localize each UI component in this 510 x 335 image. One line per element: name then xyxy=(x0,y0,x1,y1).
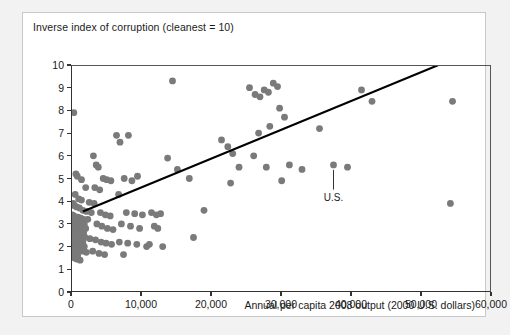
x-tick-label: 10,000 xyxy=(125,298,157,310)
chart-title: Inverse index of corruption (cleanest = … xyxy=(33,21,234,33)
scatter-point xyxy=(107,213,114,220)
scatter-point xyxy=(96,250,103,257)
y-tick-label: 3 xyxy=(30,218,64,230)
scatter-point xyxy=(113,132,120,139)
x-tick-mark xyxy=(280,292,281,296)
scatter-point xyxy=(169,77,176,84)
scatter-point xyxy=(274,83,281,90)
trendline xyxy=(83,65,439,211)
scatter-point xyxy=(110,226,117,233)
scatter-point xyxy=(265,89,272,96)
scatter-point xyxy=(157,210,164,217)
scatter-point xyxy=(447,200,454,207)
y-tick-label: 8 xyxy=(30,104,64,116)
scatter-point xyxy=(71,109,77,116)
scatter-point xyxy=(250,152,257,159)
scatter-point xyxy=(255,130,262,137)
x-axis-title: Annual per capita 2008 output (2000 U.S.… xyxy=(244,299,475,311)
scatter-point xyxy=(358,87,365,94)
scatter-point xyxy=(82,184,89,191)
x-tick-label: 60,000 xyxy=(475,298,507,310)
scatter-point xyxy=(129,177,136,184)
scatter-point xyxy=(146,241,153,248)
scatter-point xyxy=(218,137,225,144)
scatter-point xyxy=(133,241,140,248)
scatter-point xyxy=(121,175,128,182)
x-tick-label: 20,000 xyxy=(195,298,227,310)
x-tick-mark xyxy=(70,292,71,296)
scatter-point xyxy=(78,176,85,183)
scatter-point xyxy=(101,251,108,258)
scatter-point xyxy=(120,251,127,258)
scatter-point xyxy=(104,225,111,232)
scatter-point xyxy=(136,225,143,232)
annotation-label-us: U.S. xyxy=(324,192,343,203)
scatter-point xyxy=(369,98,376,105)
scatter-point xyxy=(108,177,115,184)
scatter-point xyxy=(449,98,456,105)
scatter-point xyxy=(89,248,96,255)
scatter-point xyxy=(236,164,243,171)
scatter-point xyxy=(299,166,306,173)
scatter-point xyxy=(257,93,264,100)
scatter-point xyxy=(227,180,234,187)
scatter-point xyxy=(276,105,283,112)
scatter-point xyxy=(278,177,285,184)
scatter-point xyxy=(201,207,208,214)
chart-card: Inverse index of corruption (cleanest = … xyxy=(22,12,486,317)
x-tick-mark xyxy=(350,292,351,296)
scatter-point xyxy=(224,143,231,150)
y-tick-label: 7 xyxy=(30,127,64,139)
x-tick-mark xyxy=(210,292,211,296)
figure-root: Inverse index of corruption (cleanest = … xyxy=(0,0,510,335)
scatter-point xyxy=(108,241,115,248)
scatter-point xyxy=(139,211,146,218)
scatter-points-group xyxy=(71,77,456,263)
y-tick-label: 5 xyxy=(30,173,64,185)
scatter-point xyxy=(246,84,253,91)
scatter-point xyxy=(134,173,141,180)
scatter-point xyxy=(263,164,270,171)
scatter-point xyxy=(127,223,134,230)
scatter-point xyxy=(117,139,124,146)
trendline-segment xyxy=(83,65,439,211)
scatter-point xyxy=(88,209,95,216)
y-tick-label: 2 xyxy=(30,241,64,253)
x-tick-mark xyxy=(420,292,421,296)
y-tick-label: 10 xyxy=(30,59,64,71)
scatter-plot-svg xyxy=(71,65,491,292)
scatter-point xyxy=(103,240,110,247)
plot-area xyxy=(71,65,491,292)
scatter-point xyxy=(116,239,123,246)
x-tick-label: 0 xyxy=(68,298,74,310)
y-tick-label: 6 xyxy=(30,150,64,162)
scatter-point xyxy=(186,175,193,182)
scatter-point xyxy=(164,155,171,162)
scatter-point xyxy=(131,210,138,217)
x-tick-mark xyxy=(140,292,141,296)
scatter-point xyxy=(96,186,103,193)
x-tick-mark xyxy=(490,292,491,296)
y-tick-label: 0 xyxy=(30,286,64,298)
scatter-point xyxy=(83,249,90,256)
scatter-point xyxy=(154,225,161,232)
scatter-point xyxy=(124,240,131,247)
scatter-point xyxy=(118,221,125,228)
scatter-point xyxy=(266,123,273,130)
scatter-point xyxy=(77,257,84,264)
scatter-point xyxy=(286,161,293,168)
scatter-point xyxy=(125,132,132,139)
scatter-point xyxy=(159,243,166,250)
y-tick-label: 1 xyxy=(30,263,64,275)
scatter-point xyxy=(316,125,323,132)
scatter-point xyxy=(90,152,97,159)
scatter-point xyxy=(281,114,288,121)
scatter-point xyxy=(123,209,130,216)
scatter-point xyxy=(344,164,351,171)
scatter-point xyxy=(330,161,337,168)
y-tick-label: 4 xyxy=(30,195,64,207)
y-tick-label: 9 xyxy=(30,82,64,94)
scatter-point xyxy=(95,164,102,171)
scatter-point xyxy=(87,235,94,242)
scatter-point xyxy=(78,197,85,204)
